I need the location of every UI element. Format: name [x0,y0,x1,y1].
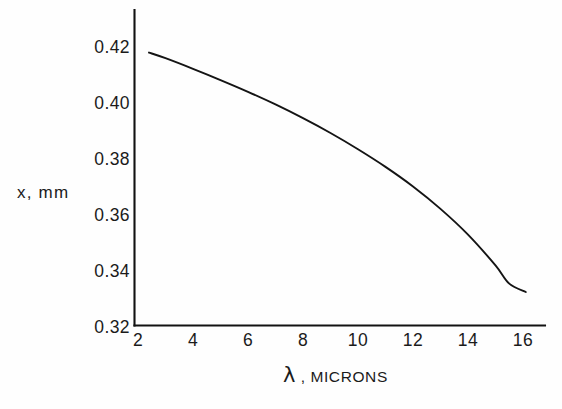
x-tick-label-7: 16 [513,330,533,351]
y-tick-label-4: 0.34 [80,261,130,282]
y-tick-label-1: 0.40 [80,93,130,114]
x-axis-title-units: , MICRONS [296,368,388,385]
y-tick-label-3: 0.36 [80,205,130,226]
y-tick-label-2: 0.38 [80,149,130,170]
x-tick-label-3: 8 [298,330,308,351]
x-tick-label-1: 4 [188,330,198,351]
data-curve [149,53,526,292]
y-tick-label-5: 0.32 [80,317,130,338]
x-axis-title: λ , MICRONS [283,363,388,387]
x-tick-label-0: 2 [133,330,143,351]
x-tick-label-2: 6 [243,330,253,351]
x-tick-label-4: 10 [348,330,368,351]
figure-canvas: 0.42 0.40 0.38 0.36 0.34 0.32 2 4 6 8 10… [0,0,562,409]
x-tick-label-6: 14 [458,330,478,351]
y-axis-title: x, mm [17,183,69,203]
lambda-symbol: λ [283,363,296,387]
x-tick-label-5: 12 [403,330,423,351]
y-tick-label-0: 0.42 [80,37,130,58]
